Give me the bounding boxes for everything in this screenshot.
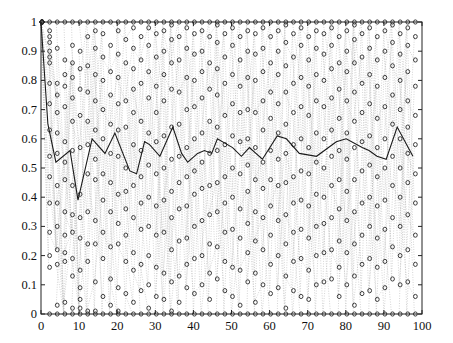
y-tick-label: 0.2 bbox=[21, 249, 37, 263]
sample-marker bbox=[406, 70, 410, 74]
sample-marker bbox=[139, 227, 143, 231]
sample-marker bbox=[391, 245, 395, 249]
sample-marker bbox=[391, 154, 395, 158]
sample-marker bbox=[231, 134, 235, 138]
sample-marker bbox=[337, 265, 341, 269]
sample-marker bbox=[124, 233, 128, 237]
sample-marker bbox=[413, 84, 417, 88]
sample-marker bbox=[330, 248, 334, 252]
sample-marker bbox=[383, 286, 387, 290]
sample-marker bbox=[231, 26, 235, 30]
sample-marker bbox=[208, 87, 212, 91]
sample-connector bbox=[110, 22, 118, 31]
sample-marker bbox=[86, 259, 90, 263]
sample-connector bbox=[369, 28, 377, 119]
sample-marker bbox=[109, 43, 113, 47]
sample-marker bbox=[215, 181, 219, 185]
sample-marker bbox=[398, 195, 402, 199]
sample-marker bbox=[353, 23, 357, 27]
sample-marker bbox=[208, 297, 212, 301]
chart: 00.10.20.30.40.50.60.70.80.91 0102030405… bbox=[0, 0, 453, 343]
sample-connector bbox=[163, 168, 171, 314]
sample-marker bbox=[116, 242, 120, 246]
sample-marker bbox=[337, 294, 341, 298]
sample-marker bbox=[299, 26, 303, 30]
y-tick-label: 0.6 bbox=[21, 132, 37, 146]
sample-marker bbox=[185, 175, 189, 179]
sample-marker bbox=[261, 46, 265, 50]
sample-connector bbox=[171, 89, 179, 209]
sample-connector bbox=[117, 22, 125, 191]
sample-marker bbox=[139, 262, 143, 266]
sample-connector bbox=[125, 48, 133, 101]
sample-connector bbox=[323, 98, 331, 197]
sample-marker bbox=[292, 81, 296, 85]
sample-marker bbox=[330, 26, 334, 30]
sample-marker bbox=[170, 189, 174, 193]
sample-connector bbox=[201, 31, 209, 300]
sample-marker bbox=[93, 157, 97, 161]
sample-marker bbox=[292, 110, 296, 114]
y-tick-label: 0.8 bbox=[21, 73, 37, 87]
sample-marker bbox=[71, 75, 75, 79]
sample-marker bbox=[154, 204, 158, 208]
sample-connector bbox=[87, 22, 95, 92]
y-tick-label: 0.9 bbox=[21, 44, 37, 58]
sample-marker bbox=[48, 175, 52, 179]
sample-connector bbox=[338, 31, 346, 119]
sample-marker bbox=[413, 201, 417, 205]
sample-marker bbox=[375, 265, 379, 269]
sample-marker bbox=[63, 72, 67, 76]
sample-marker bbox=[63, 251, 67, 255]
sample-marker bbox=[48, 230, 52, 234]
sample-connector bbox=[384, 168, 392, 247]
sample-marker bbox=[124, 61, 128, 65]
sample-connector bbox=[209, 95, 217, 299]
sample-marker bbox=[63, 105, 67, 109]
sample-marker bbox=[253, 145, 257, 149]
sample-marker bbox=[345, 29, 349, 33]
sample-marker bbox=[322, 137, 326, 141]
sample-marker bbox=[246, 189, 250, 193]
sample-marker bbox=[109, 303, 113, 307]
sample-marker bbox=[78, 236, 82, 240]
sample-marker bbox=[368, 163, 372, 167]
sample-marker bbox=[368, 195, 372, 199]
sample-marker bbox=[307, 113, 311, 117]
sample-marker bbox=[406, 248, 410, 252]
sample-connector bbox=[186, 28, 194, 107]
sample-marker bbox=[261, 283, 265, 287]
sample-marker bbox=[284, 242, 288, 246]
sample-connector bbox=[94, 200, 102, 282]
sample-marker bbox=[253, 210, 257, 214]
sample-marker bbox=[170, 157, 174, 161]
sample-marker bbox=[139, 35, 143, 39]
x-tick-label: 10 bbox=[73, 319, 86, 333]
sample-marker bbox=[48, 35, 52, 39]
sample-marker bbox=[48, 154, 52, 158]
sample-marker bbox=[383, 49, 387, 53]
x-tick-label: 60 bbox=[263, 319, 276, 333]
sample-connector bbox=[323, 218, 331, 314]
sample-marker bbox=[299, 105, 303, 109]
sample-marker bbox=[413, 143, 417, 147]
sample-marker bbox=[261, 186, 265, 190]
y-tick-label: 0.7 bbox=[21, 103, 37, 117]
sample-marker bbox=[147, 131, 151, 135]
sample-marker bbox=[337, 178, 341, 182]
sample-marker bbox=[139, 81, 143, 85]
sample-marker bbox=[337, 207, 341, 211]
sample-marker bbox=[71, 183, 75, 187]
sample-marker bbox=[78, 297, 82, 301]
sample-connector bbox=[125, 235, 133, 302]
sample-marker bbox=[71, 43, 75, 47]
sample-marker bbox=[368, 256, 372, 260]
sample-connector bbox=[155, 57, 163, 314]
sample-marker bbox=[132, 183, 136, 187]
sample-dotted-lines bbox=[41, 22, 414, 314]
sample-marker bbox=[170, 280, 174, 284]
sample-marker bbox=[353, 178, 357, 182]
y-tick-label: 0.4 bbox=[21, 190, 37, 204]
sample-marker bbox=[93, 99, 97, 103]
sample-marker bbox=[337, 35, 341, 39]
